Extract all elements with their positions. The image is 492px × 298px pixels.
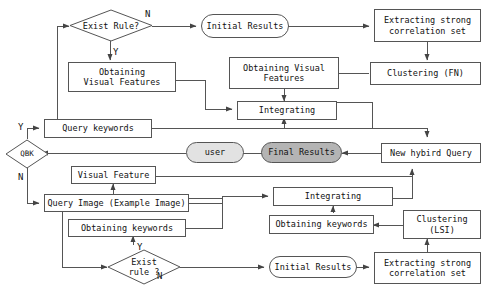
edge-label-y-top: Y bbox=[113, 48, 118, 57]
node-visual-feature: Visual Feature bbox=[71, 166, 156, 184]
edge-label-n-top: N bbox=[145, 10, 150, 19]
node-query-keywords: Query keywords bbox=[44, 119, 152, 138]
edge-label-n-bottom: N bbox=[157, 272, 162, 281]
edge-label-n-qbk: N bbox=[18, 173, 23, 182]
node-obtaining-visual-features-mid: Obtaining Visual Features bbox=[229, 57, 339, 89]
node-final-results: Final Results bbox=[261, 142, 342, 163]
node-obtaining-keywords-left: Obtaining keywords bbox=[68, 219, 186, 237]
node-initial-results-bottom: Initial Results bbox=[269, 256, 357, 278]
decision-qbk-label: QBK bbox=[5, 139, 49, 169]
node-extracting-strong-correlation-bottom: Extracting strong correlation set bbox=[374, 252, 481, 284]
node-new-hybird-query: New hybird Query bbox=[381, 143, 481, 163]
decision-qbk: QBK bbox=[5, 139, 49, 169]
node-integrating-top: Integrating bbox=[237, 101, 337, 120]
decision-exist-rule-top-label: Exist Rule? bbox=[69, 9, 153, 42]
decision-exist-rule-bottom: Exist rule ? bbox=[107, 249, 181, 285]
node-obtaining-visual-features-left: Obtaining Visual Features bbox=[68, 62, 176, 92]
edge-label-y-bottom: Y bbox=[137, 243, 142, 252]
edge-label-y-qbk: Y bbox=[18, 123, 23, 132]
node-clustering-lsi: Clustering (LSI) bbox=[403, 210, 481, 239]
node-initial-results-top: Initial Results bbox=[201, 14, 289, 38]
decision-exist-rule-bottom-label: Exist rule ? bbox=[107, 249, 181, 285]
node-user: user bbox=[186, 142, 244, 163]
node-integrating-bottom: Integrating bbox=[273, 187, 393, 206]
flowchart-canvas: Exist Rule? Initial Results Extracting s… bbox=[0, 0, 492, 298]
node-obtaining-keywords-right: Obtaining keywords bbox=[269, 215, 374, 234]
node-query-image: Query Image (Example Image) bbox=[44, 194, 189, 212]
node-extracting-strong-correlation-top: Extracting strong correlation set bbox=[374, 9, 481, 42]
node-clustering-fn: Clustering (FN) bbox=[370, 62, 481, 85]
decision-exist-rule-top: Exist Rule? bbox=[69, 9, 153, 42]
